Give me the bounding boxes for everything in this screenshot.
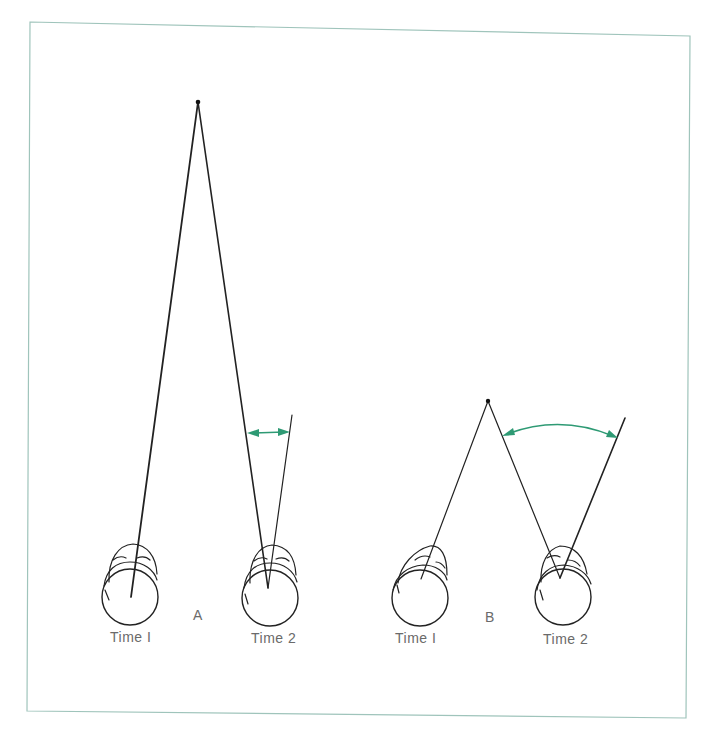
panel-a: A Time I Time 2 (102, 100, 298, 646)
motion-parallax-diagram: A Time I Time 2 (0, 0, 704, 733)
label-time1-b: Time I (395, 630, 436, 646)
sightline-time1-b (421, 401, 488, 579)
head-time2-a (242, 545, 298, 626)
angle-arrow-b (502, 424, 618, 438)
label-time1-a: Time I (110, 629, 151, 645)
panel-b: B Time I Time 2 (392, 399, 625, 647)
label-time2-b: Time 2 (543, 631, 588, 647)
sightline-time2-a (198, 102, 268, 588)
head-time1-a (102, 544, 158, 625)
sightline-time2-b (488, 401, 560, 578)
sightline-shifted-a (268, 415, 292, 588)
sightline-shifted-b (560, 418, 625, 578)
fixation-point-b (486, 399, 490, 403)
head-time2-b (535, 546, 591, 625)
panel-letter-b: B (485, 609, 494, 625)
sightline-time1-a (131, 102, 198, 597)
fixation-point-a (196, 100, 201, 105)
panel-letter-a: A (193, 607, 203, 623)
head-time1-b (392, 546, 448, 626)
angle-arrow-a (247, 428, 290, 437)
label-time2-a: Time 2 (251, 630, 296, 646)
